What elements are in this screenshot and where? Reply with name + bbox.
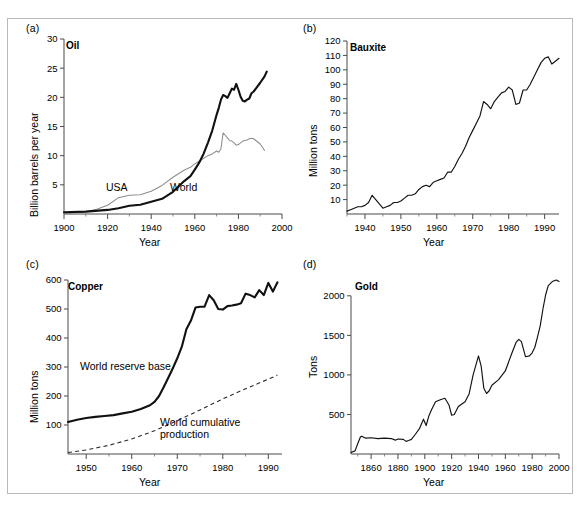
svg-text:20: 20 [47,92,58,103]
panel-a-label: (a) [26,22,39,34]
svg-text:50: 50 [330,136,341,147]
series-usa [64,133,265,214]
svg-text:40: 40 [330,151,341,162]
panel-c-title: Copper [68,281,103,292]
svg-text:2000: 2000 [271,222,292,233]
svg-text:1960: 1960 [184,222,205,233]
svg-text:1990: 1990 [258,462,279,473]
svg-text:25: 25 [47,63,58,74]
svg-text:1980: 1980 [522,462,543,473]
svg-text:1950: 1950 [76,462,97,473]
panel-a-title: Oil [66,40,79,51]
svg-text:300: 300 [46,361,62,372]
svg-text:1920: 1920 [97,222,118,233]
svg-text:600: 600 [46,274,62,285]
series-bauxite-production [347,57,559,211]
panel-b-plot: 1020304050607080901001101201940195019601… [295,22,567,255]
svg-text:1970: 1970 [462,222,483,233]
svg-text:1980: 1980 [498,222,519,233]
panel-c-y-axis-label: Million tons [28,370,40,423]
svg-text:30: 30 [47,33,58,44]
svg-text:400: 400 [46,332,62,343]
svg-text:1900: 1900 [53,222,74,233]
svg-text:10: 10 [47,150,58,161]
svg-text:90: 90 [330,79,341,90]
series-world-reserve-base [68,282,277,422]
svg-text:10: 10 [330,194,341,205]
svg-text:1900: 1900 [414,462,435,473]
panel-d-x-axis-label: Year [423,476,444,488]
panel-c-label: (c) [26,258,39,270]
panel-c-cumulative-line1: World cumulative [160,417,265,429]
panel-c-plot: 10020030040050060019501960197019801990 [18,258,290,498]
figure-resource-production: (a) Oil Billion barrels per year Year US… [0,0,580,507]
svg-text:1500: 1500 [323,330,344,341]
panel-a-series-label-world: World [170,182,197,194]
panel-c-x-axis-label: Year [139,476,160,488]
series-world-cumulative-production [68,375,277,452]
panel-b-y-axis-label: Million tons [307,124,319,177]
panel-b-x-axis-label: Year [423,236,444,248]
svg-text:1940: 1940 [468,462,489,473]
svg-text:1980: 1980 [212,462,233,473]
svg-text:1940: 1940 [354,222,375,233]
panel-d-plot: 5001000150020001860188019001920194019601… [295,258,567,498]
svg-text:1920: 1920 [441,462,462,473]
svg-text:120: 120 [325,35,341,46]
svg-text:100: 100 [325,64,341,75]
series-world [64,72,267,213]
svg-text:1990: 1990 [534,222,555,233]
panel-b-label: (b) [303,22,316,34]
svg-text:80: 80 [330,93,341,104]
svg-text:500: 500 [329,409,345,420]
svg-text:1000: 1000 [323,369,344,380]
svg-text:60: 60 [330,122,341,133]
panel-b-title: Bauxite [350,42,386,53]
panel-c-cumulative-line2: production [160,429,265,441]
series-gold-production [351,280,559,452]
svg-text:1950: 1950 [390,222,411,233]
svg-text:100: 100 [46,419,62,430]
panel-d-label: (d) [303,258,316,270]
panel-a-plot: 51015202530190019201940196019802000 [18,22,290,255]
panel-c-copper: (c) Copper Million tons Year World reser… [18,258,290,498]
svg-text:20: 20 [330,180,341,191]
panel-d-title: Gold [355,281,378,292]
svg-text:1960: 1960 [121,462,142,473]
svg-text:2000: 2000 [323,290,344,301]
svg-text:1860: 1860 [361,462,382,473]
svg-text:70: 70 [330,107,341,118]
panel-a-series-label-usa: USA [106,182,128,194]
svg-text:30: 30 [330,165,341,176]
svg-text:1970: 1970 [167,462,188,473]
svg-text:1960: 1960 [495,462,516,473]
svg-text:1960: 1960 [426,222,447,233]
panel-a-oil: (a) Oil Billion barrels per year Year US… [18,22,290,255]
panel-a-x-axis-label: Year [139,236,160,248]
svg-text:5: 5 [52,179,57,190]
panel-c-series-label-cumulative: World cumulativeproduction [160,417,265,440]
svg-text:200: 200 [46,390,62,401]
panel-d-y-axis-label: Tons [307,356,319,378]
svg-text:500: 500 [46,303,62,314]
panel-c-series-label-reserve: World reserve base [80,361,171,373]
svg-text:1980: 1980 [228,222,249,233]
svg-text:1940: 1940 [141,222,162,233]
svg-text:1880: 1880 [387,462,408,473]
panel-a-y-axis-label: Billion barrels per year [28,113,40,217]
svg-text:110: 110 [325,50,340,61]
panel-d-gold: (d) Gold Tons Year 500100015002000186018… [295,258,567,498]
panel-b-bauxite: (b) Bauxite Million tons Year 1020304050… [295,22,567,255]
svg-text:2000: 2000 [548,462,569,473]
svg-text:15: 15 [47,121,58,132]
